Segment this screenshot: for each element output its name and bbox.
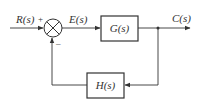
feedback-block-h: H(s) <box>87 73 124 98</box>
plus-sign: + <box>38 14 43 24</box>
output-label: C(s) <box>172 12 191 25</box>
input-label: R(s) <box>15 13 35 26</box>
svg-text:G(s): G(s) <box>110 22 130 35</box>
summing-junction <box>44 19 62 37</box>
svg-text:H(s): H(s) <box>95 79 116 92</box>
error-label: E(s) <box>68 13 88 26</box>
forward-block-g: G(s) <box>101 16 138 41</box>
block-diagram: R(s) + – E(s) G(s) C(s) H(s) <box>0 0 206 112</box>
minus-sign: – <box>55 38 61 48</box>
